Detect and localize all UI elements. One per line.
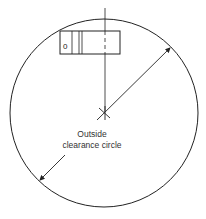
diagram-canvas: 0 Outside clearance circle [0,0,206,219]
clearance-diagram [0,0,206,219]
clearance-label-line2: clearance circle [47,140,137,150]
component-rectangle [60,31,120,54]
component-marker: 0 [63,42,67,51]
leader-arrow [40,155,65,180]
radius-arrow [97,48,170,120]
clearance-label-line1: Outside [62,129,122,139]
